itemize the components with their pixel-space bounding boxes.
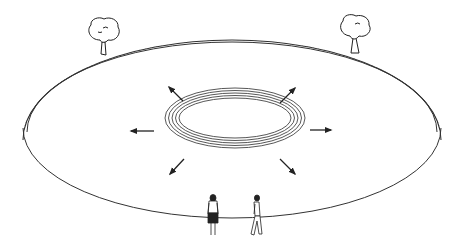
wall-railing [23,40,441,137]
wall-inner-edge [27,42,437,132]
arrow-down-right-icon [280,159,295,174]
person-man-icon [251,195,262,235]
person-woman-icon [208,195,218,236]
arrow-up-left-icon [169,87,183,101]
tree-right-icon [341,15,371,53]
enclosure-bottom-edge [23,128,441,218]
tree-left-icon [89,18,119,55]
radiating-arrows [131,87,331,174]
arrow-down-left-icon [170,159,184,174]
center-rings [165,88,305,148]
wall-outer-top [23,40,441,140]
enclosure [23,40,441,218]
illustration-canvas [0,0,464,248]
